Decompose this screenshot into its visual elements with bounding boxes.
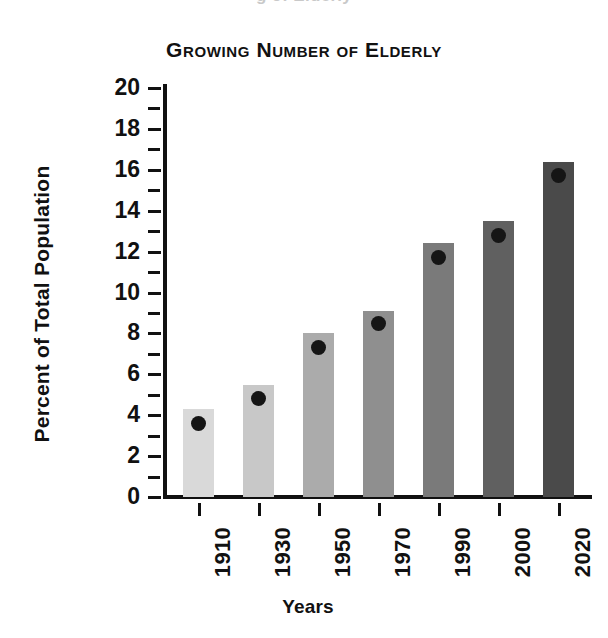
x-tick-label: 1950 xyxy=(330,527,356,637)
x-tick xyxy=(258,503,261,516)
bars-layer xyxy=(0,0,608,497)
x-axis-title: Years xyxy=(118,596,498,618)
data-point-marker xyxy=(491,228,506,243)
bar xyxy=(483,221,514,497)
x-tick xyxy=(198,503,201,516)
data-point-marker xyxy=(371,316,386,331)
x-tick-label: 1990 xyxy=(450,527,476,637)
x-tick xyxy=(378,503,381,516)
bar xyxy=(303,333,334,497)
x-tick xyxy=(498,503,501,516)
x-tick-label: 1970 xyxy=(390,527,416,637)
x-tick xyxy=(438,503,441,516)
x-tick-label: 2000 xyxy=(510,527,536,637)
x-tick-label: 1910 xyxy=(210,527,236,637)
bar xyxy=(423,243,454,497)
chart-figure: g of Elderly Growing Number of Elderly P… xyxy=(0,0,608,638)
x-tick-label: 2020 xyxy=(570,527,596,637)
bar xyxy=(363,311,394,497)
x-tick xyxy=(318,503,321,516)
data-point-marker xyxy=(191,416,206,431)
x-tick-label: 1930 xyxy=(270,527,296,637)
x-tick xyxy=(558,503,561,516)
bar xyxy=(543,162,574,497)
